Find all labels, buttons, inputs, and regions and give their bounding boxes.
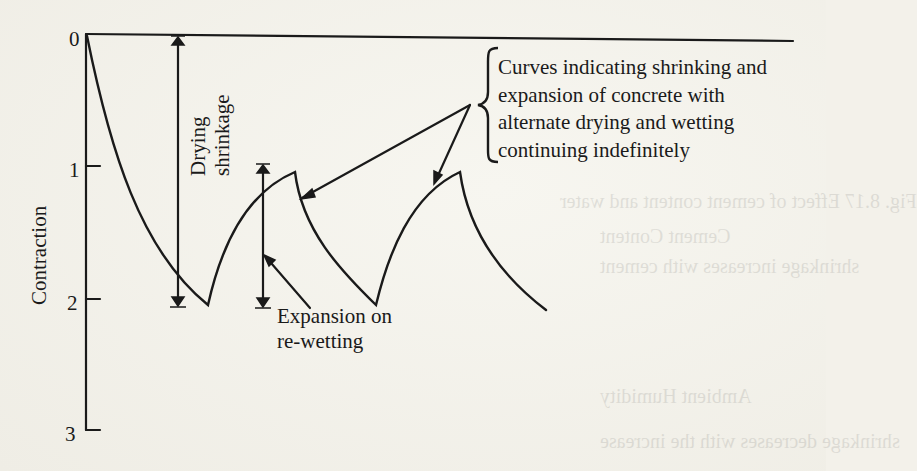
curves-note: Curves indicating shrinking and expansio…: [498, 54, 767, 164]
expansion-line-1: Expansion on: [277, 304, 392, 329]
leader-arrow-1: [302, 105, 470, 198]
arrowhead-leader: [301, 189, 315, 199]
zero-baseline: [86, 34, 793, 41]
curves-note-line-2: expansion of concrete with: [498, 82, 767, 110]
arrowhead-up: [172, 37, 184, 45]
drying-shrinkage-label: Drying shrinkage: [186, 94, 234, 176]
arrowhead-down: [257, 298, 269, 307]
y-tick-label-2: 2: [67, 293, 78, 314]
curves-note-line-1: Curves indicating shrinking and: [498, 54, 767, 82]
curves-note-line-4: continuing indefinitely: [498, 137, 767, 165]
curves-note-line-3: alternate drying and wetting: [498, 109, 767, 137]
arrowhead-leader: [434, 171, 442, 184]
y-tick-label-1: 1: [69, 160, 80, 181]
y-axis-label: Contraction: [27, 206, 51, 305]
drying-shrinkage-line-2: shrinkage: [210, 94, 234, 176]
expansion-line-2: re-wetting: [277, 329, 392, 354]
y-tick-label-3: 3: [65, 424, 76, 445]
y-tick-label-0: 0: [69, 29, 80, 50]
drying-shrinkage-line-1: Drying: [186, 94, 210, 176]
arrowhead-down: [172, 297, 184, 306]
drying-wetting-curve: [87, 36, 546, 310]
curly-brace: [478, 48, 498, 162]
arrowhead-up: [257, 165, 269, 173]
expansion-label: Expansion on re-wetting: [277, 304, 392, 354]
leader-arrow-2: [435, 105, 470, 182]
